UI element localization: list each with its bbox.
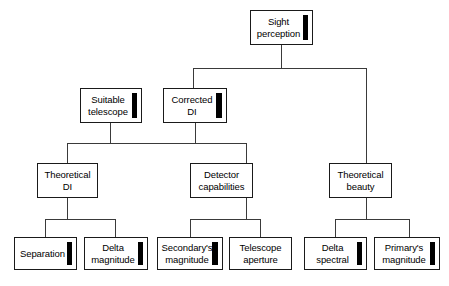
connector-top-bus <box>193 68 367 69</box>
connector-detector-capabilities-stem <box>246 198 247 219</box>
connector-bus-to-theoretical-di <box>67 143 68 163</box>
node-label: Theoretical DI <box>38 169 97 192</box>
node-corrected-di[interactable]: Corrected DI <box>163 88 227 123</box>
connector-bus-to-theoretical-beauty <box>366 68 367 163</box>
marker-bar-icon <box>216 93 222 118</box>
marker-bar-icon <box>67 242 72 265</box>
connector-theoretical-beauty-bus <box>335 219 409 220</box>
node-sight-perception[interactable]: Sight perception <box>250 10 313 45</box>
connector-level2-bus <box>67 143 246 144</box>
connector-detector-to-secondarys-magnitude <box>190 219 191 237</box>
marker-bar-icon <box>303 15 308 40</box>
marker-bar-icon <box>430 242 435 265</box>
marker-bar-icon <box>138 242 143 265</box>
connector-bus-to-detector-capabilities <box>246 143 247 163</box>
node-label: Detector capabilities <box>191 169 252 192</box>
node-telescope-aperture[interactable]: Telescope aperture <box>229 237 292 270</box>
connector-root-stem <box>281 45 282 68</box>
connector-theoretical-di-to-delta-magnitude <box>115 219 116 237</box>
node-secondarys-magnitude[interactable]: Secondary's magnitude <box>157 237 223 270</box>
connector-theoretical-di-bus <box>45 219 115 220</box>
marker-bar-icon <box>132 93 137 118</box>
marker-bar-icon <box>212 242 218 265</box>
connector-theoretical-beauty-stem <box>366 198 367 219</box>
tree-diagram: Sight perception Suitable telescope Corr… <box>0 0 449 286</box>
node-separation[interactable]: Separation <box>14 237 77 270</box>
node-delta-magnitude[interactable]: Delta magnitude <box>84 237 148 270</box>
connector-theoretical-di-stem <box>67 198 68 219</box>
marker-bar-icon <box>357 242 362 265</box>
connector-bus-to-corrected-di <box>193 68 194 88</box>
node-primarys-magnitude[interactable]: Primary's magnitude <box>374 237 440 270</box>
connector-beauty-to-primarys-magnitude <box>409 219 410 237</box>
connector-suitable-telescope-stem <box>110 123 111 144</box>
connector-corrected-di-stem <box>195 123 196 144</box>
node-suitable-telescope[interactable]: Suitable telescope <box>80 88 142 123</box>
node-theoretical-beauty[interactable]: Theoretical beauty <box>329 163 392 198</box>
node-detector-capabilities[interactable]: Detector capabilities <box>190 163 253 198</box>
node-theoretical-di[interactable]: Theoretical DI <box>37 163 98 198</box>
connector-beauty-to-delta-spectral <box>335 219 336 237</box>
node-label: Theoretical beauty <box>330 169 391 192</box>
connector-detector-capabilities-bus <box>190 219 260 220</box>
node-label: Telescope aperture <box>230 242 291 265</box>
connector-theoretical-di-to-separation <box>45 219 46 237</box>
connector-detector-to-telescope-aperture <box>260 219 261 237</box>
node-delta-spectral[interactable]: Delta spectral <box>304 237 367 270</box>
